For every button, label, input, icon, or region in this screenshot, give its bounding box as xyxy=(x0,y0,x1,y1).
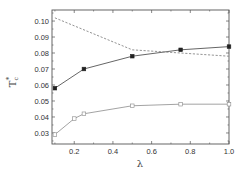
filled-square-marker xyxy=(227,45,231,49)
open-square-marker xyxy=(53,133,57,137)
series-layer xyxy=(53,18,231,137)
svg-text:Tc*: Tc* xyxy=(5,76,19,87)
x-tick-label: 0.6 xyxy=(146,147,156,156)
y-tick-label: 0.08 xyxy=(34,49,49,58)
filled-square-marker xyxy=(130,54,134,58)
x-tick-label: 0.8 xyxy=(185,147,195,156)
series-open-squares xyxy=(53,102,231,136)
open-square-marker xyxy=(179,102,183,106)
filled-square-marker xyxy=(82,67,86,71)
series-filled-squares xyxy=(53,45,231,90)
y-axis-ticks: 0.030.040.050.060.070.080.090.10 xyxy=(34,13,229,141)
x-axis-ticks: 0.20.40.60.81.0 xyxy=(55,10,234,156)
series-line xyxy=(55,18,229,56)
open-square-marker xyxy=(130,104,134,108)
plot-border xyxy=(52,10,229,144)
series-line xyxy=(55,47,229,89)
y-tick-label: 0.03 xyxy=(34,129,49,138)
filled-square-marker xyxy=(179,48,183,52)
line-chart: 0.20.40.60.81.0 0.030.040.050.060.070.08… xyxy=(0,0,244,174)
y-tick-label: 0.05 xyxy=(34,97,49,106)
x-tick-label: 1.0 xyxy=(224,147,234,156)
y-axis-label: Tc* xyxy=(5,76,19,87)
plot-frame xyxy=(52,10,229,144)
y-tick-label: 0.07 xyxy=(34,65,49,74)
y-axis-label-sub: c xyxy=(12,77,19,81)
open-square-marker xyxy=(82,112,86,116)
series-dashed xyxy=(55,18,229,56)
y-tick-label: 0.04 xyxy=(34,113,49,122)
open-square-marker xyxy=(72,117,76,121)
x-tick-label: 0.4 xyxy=(108,147,118,156)
x-tick-label: 0.2 xyxy=(69,147,79,156)
y-tick-label: 0.10 xyxy=(34,17,49,26)
open-square-marker xyxy=(227,102,231,106)
filled-square-marker xyxy=(53,86,57,90)
y-tick-label: 0.06 xyxy=(34,81,49,90)
series-line xyxy=(55,104,229,134)
y-axis-label-sup: * xyxy=(5,76,13,80)
y-tick-label: 0.09 xyxy=(34,33,49,42)
x-axis-label: λ xyxy=(137,158,144,169)
